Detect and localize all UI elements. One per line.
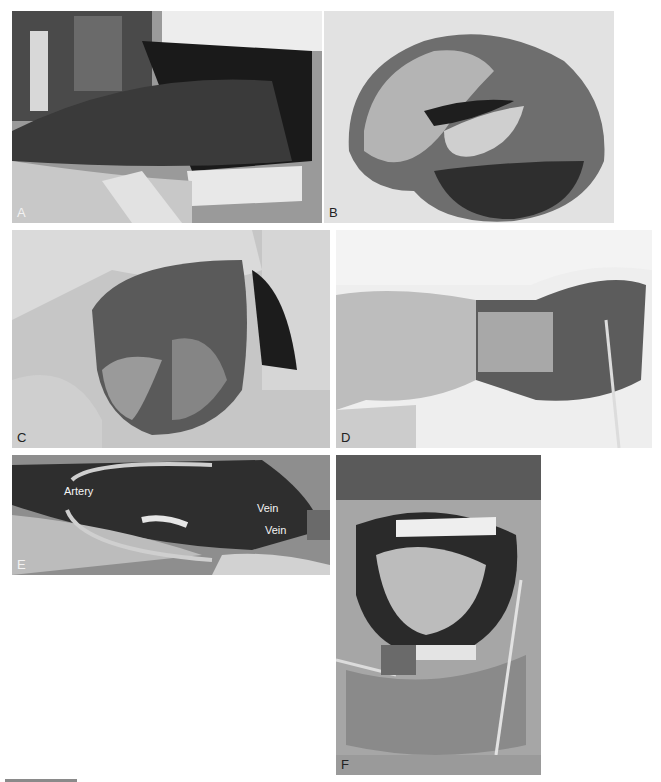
panel-label: D: [341, 431, 350, 444]
pedicle-vessels-photo: [12, 455, 330, 575]
artery-annotation: Artery: [64, 485, 93, 497]
panel-f-image: F: [336, 455, 541, 775]
specimen-photo: [324, 11, 614, 223]
panel-d-image: D: [336, 230, 652, 448]
panel-b-image: B: [324, 11, 614, 223]
vein-annotation-1: Vein: [257, 502, 278, 514]
panel-label: E: [17, 558, 26, 571]
panel-c-image: C: [12, 230, 330, 448]
postop-oral-photo: [336, 455, 541, 775]
panel-label: F: [341, 758, 349, 771]
neck-field-photo: [12, 230, 330, 448]
panel-label: A: [17, 206, 26, 219]
panel-a-image: A: [12, 11, 322, 223]
oral-cavity-photo: [12, 11, 322, 223]
vein-annotation-2: Vein: [265, 524, 286, 536]
panel-label: B: [329, 206, 338, 219]
panel-e-image: Artery Vein Vein E: [12, 455, 330, 575]
forearm-flap-photo: [336, 230, 652, 448]
panel-label: C: [17, 431, 26, 444]
